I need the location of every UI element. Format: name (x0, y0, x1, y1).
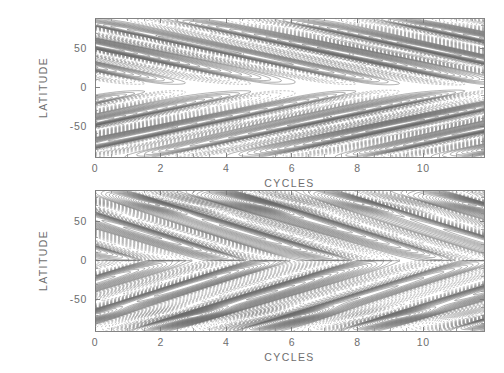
y-tick-label: 0 (80, 254, 87, 266)
y-tick-label: 0 (80, 81, 87, 93)
x-tick-label: 10 (417, 162, 430, 174)
y-tick-label: 50 (74, 42, 87, 54)
x-tick-label: 0 (92, 162, 99, 174)
y-tick-label: 50 (74, 215, 87, 227)
x-tick-label: 4 (223, 336, 230, 348)
y-tick-label: -50 (70, 120, 87, 132)
y-tick-label: -50 (70, 293, 87, 305)
x-tick-label: 0 (92, 336, 99, 348)
x-axis-title: CYCLES (264, 351, 314, 363)
x-tick-label: 10 (417, 336, 430, 348)
y-axis-title: LATITUDE (37, 57, 49, 118)
x-tick-label: 6 (289, 162, 296, 174)
x-tick-label: 2 (157, 336, 164, 348)
figure-container: 0246810CYCLES500-50LATITUDE0246810CYCLES… (0, 0, 504, 373)
upper-panel: 0246810CYCLES500-50LATITUDE (37, 18, 484, 189)
x-tick-label: 6 (289, 336, 296, 348)
y-axis-title: LATITUDE (37, 230, 49, 291)
contour-group (95, 18, 484, 157)
lower-panel: 0246810CYCLES500-50LATITUDE (37, 190, 484, 363)
x-tick-label: 4 (223, 162, 230, 174)
x-axis-title: CYCLES (264, 177, 314, 189)
x-tick-label: 2 (157, 162, 164, 174)
contour-plot-svg: 0246810CYCLES500-50LATITUDE0246810CYCLES… (0, 0, 504, 373)
x-tick-label: 8 (354, 336, 361, 348)
contour-group (95, 190, 484, 331)
x-tick-label: 8 (354, 162, 361, 174)
